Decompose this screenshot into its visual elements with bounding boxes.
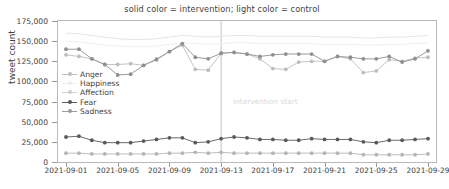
series-marker bbox=[258, 55, 262, 59]
legend-item-affection[interactable]: Affection bbox=[62, 88, 120, 97]
series-marker bbox=[168, 50, 172, 54]
x-axis-tick-mark bbox=[169, 163, 170, 167]
series-marker bbox=[336, 138, 340, 142]
series-marker bbox=[142, 152, 146, 156]
series-marker bbox=[361, 140, 365, 144]
legend-marker-icon bbox=[62, 98, 77, 107]
series-marker bbox=[129, 152, 133, 156]
legend-item-happiness[interactable]: Happiness bbox=[62, 79, 120, 88]
series-marker bbox=[206, 68, 210, 72]
chart-title: solid color = intervention; light color … bbox=[0, 4, 444, 14]
series-marker bbox=[310, 151, 314, 155]
series-marker bbox=[116, 63, 120, 67]
y-axis-tick-label: 75,000 bbox=[21, 97, 48, 106]
series-marker bbox=[400, 153, 404, 157]
y-axis: 025,00050,00075,000100,000125,000150,000… bbox=[0, 0, 57, 189]
series-marker bbox=[310, 52, 314, 56]
series-marker bbox=[336, 55, 340, 59]
series-marker bbox=[374, 153, 378, 157]
legend-item-label: Anger bbox=[77, 70, 103, 79]
x-axis-tick-mark bbox=[428, 163, 429, 167]
y-axis-tick-label: 150,000 bbox=[17, 37, 48, 46]
series-marker bbox=[284, 67, 288, 71]
series-marker bbox=[387, 138, 391, 142]
series-marker bbox=[103, 141, 107, 145]
series-marker bbox=[193, 55, 197, 59]
series-marker bbox=[271, 151, 275, 155]
series-line bbox=[66, 41, 428, 47]
series-marker bbox=[77, 55, 81, 59]
intervention-start-label: intervention start bbox=[233, 97, 298, 106]
series-fear-intervention bbox=[64, 134, 430, 144]
legend-item-label: Fear bbox=[77, 98, 96, 107]
series-marker bbox=[129, 72, 133, 76]
series-marker bbox=[206, 57, 210, 61]
series-marker bbox=[90, 152, 94, 156]
series-marker bbox=[323, 138, 327, 142]
series-marker bbox=[90, 57, 94, 61]
legend-item-label: Affection bbox=[77, 88, 114, 97]
series-line bbox=[66, 33, 428, 39]
chart-legend: AngerHappinessAffectionFearSadness bbox=[62, 70, 120, 116]
series-marker bbox=[77, 47, 81, 51]
series-marker bbox=[374, 69, 378, 73]
series-marker bbox=[400, 60, 404, 64]
series-marker bbox=[387, 55, 391, 59]
series-marker bbox=[323, 59, 327, 63]
series-marker bbox=[142, 63, 146, 67]
series-marker bbox=[168, 136, 172, 140]
series-marker bbox=[297, 60, 301, 64]
x-axis-tick-label: 2021-09-13 bbox=[200, 166, 243, 175]
legend-item-fear[interactable]: Fear bbox=[62, 98, 120, 107]
series-marker bbox=[129, 141, 133, 145]
legend-item-label: Happiness bbox=[77, 79, 120, 88]
series-marker bbox=[232, 151, 236, 155]
series-marker bbox=[284, 151, 288, 155]
series-marker bbox=[129, 62, 133, 66]
x-axis-tick-label: 2021-09-01 bbox=[45, 166, 88, 175]
series-sadness-control bbox=[64, 150, 430, 156]
legend-item-anger[interactable]: Anger bbox=[62, 70, 120, 79]
series-marker bbox=[77, 134, 81, 138]
x-axis-tick-mark bbox=[221, 163, 222, 167]
series-marker bbox=[180, 151, 184, 155]
x-axis-tick-mark bbox=[376, 163, 377, 167]
series-marker bbox=[219, 51, 223, 55]
y-axis-tick-label: 25,000 bbox=[21, 137, 48, 146]
series-marker bbox=[387, 153, 391, 157]
series-marker bbox=[413, 57, 417, 61]
legend-marker-icon bbox=[62, 79, 77, 88]
series-marker bbox=[413, 138, 417, 142]
series-marker bbox=[323, 151, 327, 155]
series-marker bbox=[361, 71, 365, 75]
x-axis-tick-label: 2021-09-09 bbox=[148, 166, 191, 175]
series-marker bbox=[77, 151, 81, 155]
series-marker bbox=[284, 52, 288, 56]
series-marker bbox=[155, 138, 159, 142]
series-marker bbox=[245, 136, 249, 140]
series-marker bbox=[413, 153, 417, 157]
series-marker bbox=[361, 153, 365, 157]
series-marker bbox=[426, 49, 430, 53]
series-marker bbox=[426, 55, 430, 59]
series-marker bbox=[219, 150, 223, 154]
legend-item-label: Sadness bbox=[77, 107, 112, 116]
series-marker bbox=[232, 51, 236, 55]
series-marker bbox=[64, 47, 68, 51]
y-axis-tick-label: 175,000 bbox=[17, 17, 48, 26]
x-axis-tick-label: 2021-09-17 bbox=[251, 166, 294, 175]
y-axis-tick-label: 100,000 bbox=[17, 77, 48, 86]
series-marker bbox=[297, 138, 301, 142]
legend-item-sadness[interactable]: Sadness bbox=[62, 107, 120, 116]
series-marker bbox=[103, 63, 107, 67]
series-marker bbox=[193, 67, 197, 71]
series-line bbox=[66, 44, 428, 75]
legend-marker-icon bbox=[62, 107, 77, 116]
series-marker bbox=[271, 138, 275, 142]
series-marker bbox=[155, 58, 159, 62]
series-marker bbox=[271, 53, 275, 57]
series-marker bbox=[193, 150, 197, 154]
series-marker bbox=[116, 141, 120, 145]
x-axis-tick-label: 2021-09-05 bbox=[96, 166, 139, 175]
